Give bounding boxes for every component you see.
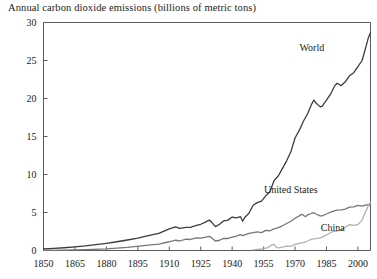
x-tick-label: 1850 bbox=[34, 258, 54, 269]
y-tick-label: 25 bbox=[27, 55, 37, 66]
y-tick-label: 20 bbox=[27, 93, 37, 104]
x-tick-label: 1910 bbox=[159, 258, 179, 269]
x-tick-label: 1955 bbox=[254, 258, 274, 269]
x-tick-label: 1925 bbox=[191, 258, 211, 269]
series-line-china bbox=[253, 202, 370, 250]
x-tick-label: 1985 bbox=[316, 258, 336, 269]
series-label-china: China bbox=[321, 222, 345, 233]
series-label-united-states: United States bbox=[264, 184, 318, 195]
y-tick-label: 0 bbox=[32, 245, 37, 256]
x-tick-label: 1895 bbox=[128, 258, 148, 269]
y-tick-label: 10 bbox=[27, 169, 37, 180]
series-label-world: World bbox=[299, 42, 324, 53]
y-tick-label: 30 bbox=[27, 17, 37, 28]
x-tick-label: 1880 bbox=[96, 258, 116, 269]
y-tick-label: 5 bbox=[32, 207, 37, 218]
chart-plot: 0510152025301850186518801895191019251940… bbox=[0, 0, 377, 279]
x-tick-label: 1970 bbox=[285, 258, 305, 269]
x-tick-label: 1940 bbox=[222, 258, 242, 269]
x-tick-label: 1865 bbox=[65, 258, 85, 269]
chart-container: Annual carbon dioxide emissions (billion… bbox=[0, 0, 377, 279]
y-tick-label: 15 bbox=[27, 131, 37, 142]
x-tick-label: 2000 bbox=[348, 258, 368, 269]
